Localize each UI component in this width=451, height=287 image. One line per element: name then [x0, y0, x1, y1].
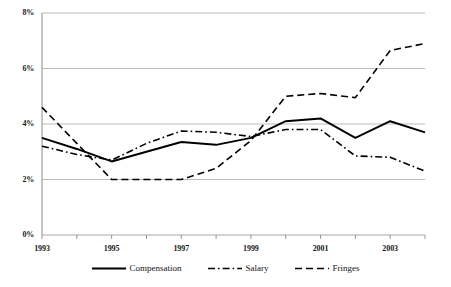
legend-label: Salary	[246, 263, 269, 273]
series-line-compensation	[42, 118, 425, 161]
y-axis-tick-label: 2%	[8, 175, 34, 184]
line-chart: 0%2%4%6%8% 199319951997199920012003 Comp…	[0, 0, 451, 287]
gridlines	[42, 13, 425, 235]
x-axis-tick-label: 1995	[92, 244, 132, 253]
x-axis-tick-label: 2003	[370, 244, 410, 253]
x-axis-tick-label: 1997	[161, 244, 201, 253]
legend-label: Fringes	[333, 263, 360, 273]
chart-legend: CompensationSalaryFringes	[0, 263, 451, 273]
series-lines	[42, 44, 425, 180]
x-axis-tick-label: 1999	[231, 244, 271, 253]
dashed-line-swatch	[295, 264, 329, 273]
legend-item-salary[interactable]: Salary	[208, 263, 269, 273]
series-line-salary	[42, 130, 425, 172]
x-axis-tick-label: 1993	[22, 244, 62, 253]
y-axis-tick-label: 8%	[8, 8, 34, 17]
legend-item-fringes[interactable]: Fringes	[295, 263, 360, 273]
y-axis-tick-label: 6%	[8, 64, 34, 73]
solid-line-swatch	[92, 264, 126, 273]
y-axis-tick-label: 4%	[8, 119, 34, 128]
series-line-fringes	[42, 44, 425, 180]
dash-dot-line-swatch	[208, 264, 242, 273]
legend-label: Compensation	[130, 263, 182, 273]
legend-item-compensation[interactable]: Compensation	[92, 263, 182, 273]
y-axis-tick-label: 0%	[8, 230, 34, 239]
x-axis-tick-label: 2001	[301, 244, 341, 253]
x-axis-ticks	[42, 235, 425, 239]
